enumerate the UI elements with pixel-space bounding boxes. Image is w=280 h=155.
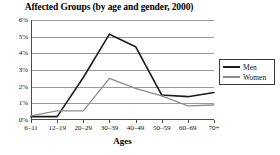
x-axis-tick-label: 40–49: [127, 124, 145, 132]
x-axis-tick-label: 30–39: [101, 124, 119, 132]
x-axis-tick: [109, 120, 110, 123]
x-axis-tick-label: 70+: [209, 124, 220, 132]
x-axis-tick: [83, 120, 84, 123]
x-axis-tick-label: 6–11: [24, 124, 38, 132]
plot-area: [31, 20, 214, 120]
x-axis-title: Ages: [31, 136, 214, 146]
chart-title: Affected Groups (by age and gender, 2000…: [0, 2, 218, 13]
plot-frame: 0%1%2%3%4%5%6% 6–1112–1920–2930–3940–495…: [31, 20, 214, 120]
x-axis-tick-label: 20–29: [75, 124, 93, 132]
legend-swatch-women-icon: [223, 76, 240, 78]
y-axis-tick-label: 1%: [19, 100, 28, 107]
x-axis-tick: [136, 120, 137, 123]
legend-item-women: Women: [222, 72, 272, 82]
chart-legend: Men Women: [219, 59, 275, 85]
x-axis-tick: [57, 120, 58, 123]
legend-label-women: Women: [243, 73, 266, 82]
y-axis-tick-label: 6%: [19, 17, 28, 24]
y-axis-tick-label: 5%: [19, 33, 28, 40]
x-axis-tick: [31, 120, 32, 123]
x-axis-tick-label: 12–19: [48, 124, 66, 132]
legend-swatch-men-icon: [223, 66, 240, 68]
x-axis-tick: [188, 120, 189, 123]
chart-screenshot: Affected Groups (by age and gender, 2000…: [0, 0, 280, 155]
x-axis-tick: [162, 120, 163, 123]
series-lines: [31, 20, 214, 120]
y-axis-tick-label: 3%: [19, 67, 28, 74]
legend-label-men: Men: [243, 63, 257, 72]
x-axis-tick: [214, 120, 215, 123]
y-axis-tick-label: 0%: [19, 117, 28, 124]
legend-item-men: Men: [222, 62, 272, 72]
series-line-men: [31, 34, 214, 117]
y-axis-tick-label: 2%: [19, 83, 28, 90]
x-axis-tick-label: 50–59: [153, 124, 171, 132]
y-axis-tick-label: 4%: [19, 50, 28, 57]
x-axis-tick-label: 60–69: [179, 124, 197, 132]
